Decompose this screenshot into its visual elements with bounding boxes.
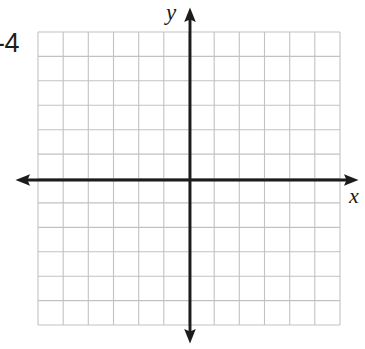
coordinate-plane-figure: y x -4 (0, 0, 365, 349)
coordinate-grid-svg (0, 0, 365, 349)
corner-value-label: -4 (0, 30, 19, 57)
figure-background (0, 0, 365, 349)
y-axis-label: y (166, 1, 176, 24)
x-axis-label: x (349, 185, 359, 207)
